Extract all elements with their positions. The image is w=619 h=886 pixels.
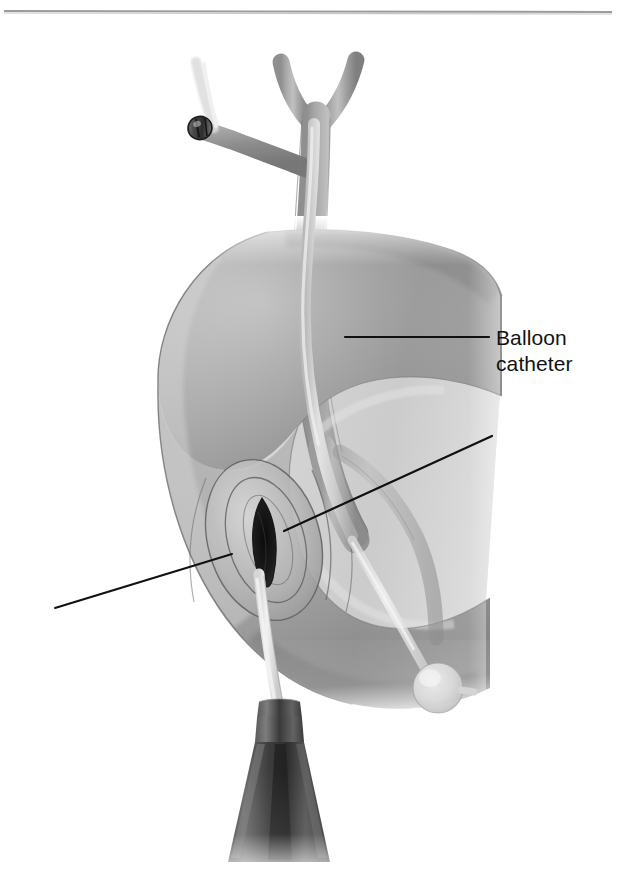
anatomical-illustration [0,0,619,886]
right-edge-vignette [470,180,619,740]
label-balloon-catheter: Balloon catheter [496,325,573,377]
hub-collar-lower [255,715,304,746]
medical-illustration-figure: Balloon catheter [0,0,619,886]
top-divider-rule [4,11,612,12]
balloon-specular-highlight [419,669,441,687]
duodenum-top-fade [150,216,520,286]
hub-bottom-fade [214,770,346,886]
